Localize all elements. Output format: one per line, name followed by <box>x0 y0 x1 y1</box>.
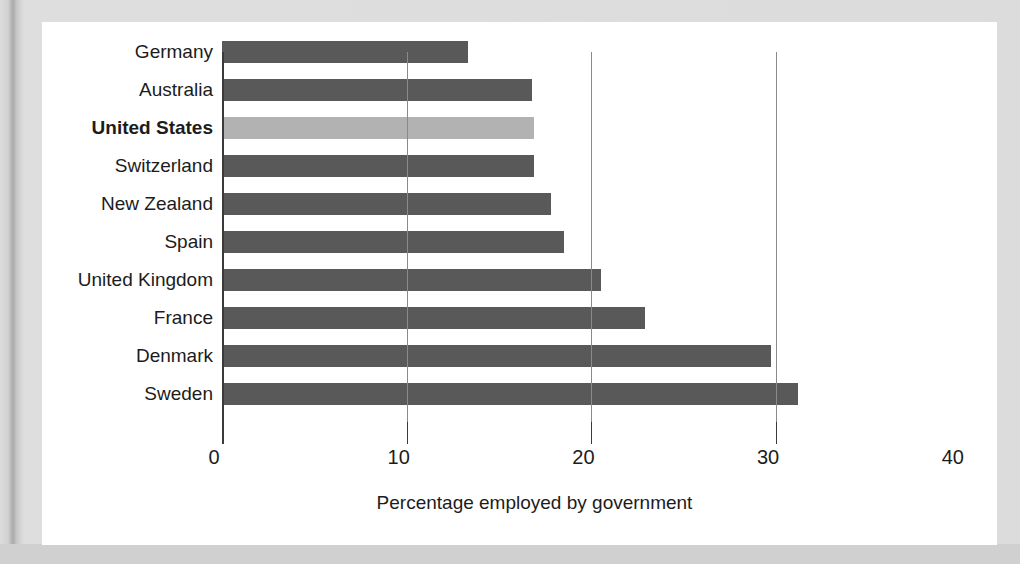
tick-mark-10 <box>407 422 408 444</box>
category-label: Switzerland <box>42 147 222 185</box>
tick-mark-0 <box>222 422 223 444</box>
tick-label-30: 30 <box>738 446 798 469</box>
axis-title-text: Percentage employed by government <box>377 492 693 514</box>
bar-row <box>222 71 997 109</box>
category-label: Germany <box>42 33 222 71</box>
chart-panel: GermanyAustraliaUnited StatesSwitzerland… <box>42 22 997 545</box>
tick-label-0: 0 <box>184 446 244 469</box>
bar-sweden[interactable] <box>222 383 798 405</box>
tick-label-20: 20 <box>553 446 613 469</box>
bar-row <box>222 33 997 71</box>
bar-spain[interactable] <box>222 231 564 253</box>
tick-mark-30 <box>776 422 777 444</box>
value-axis-line <box>222 52 224 444</box>
bar-united-kingdom[interactable] <box>222 269 601 291</box>
category-axis-labels: GermanyAustraliaUnited StatesSwitzerland… <box>42 33 222 413</box>
category-label: Denmark <box>42 337 222 375</box>
category-label: United Kingdom <box>42 261 222 299</box>
bar-united-states[interactable] <box>222 117 534 139</box>
bar-germany[interactable] <box>222 41 468 63</box>
bar-switzerland[interactable] <box>222 155 534 177</box>
gridline-30 <box>776 52 777 444</box>
bar-row <box>222 299 997 337</box>
bar-row <box>222 375 997 413</box>
axis-title: Percentage employed by government <box>42 492 997 514</box>
bar-row <box>222 223 997 261</box>
category-label: New Zealand <box>42 185 222 223</box>
bars-container <box>222 33 997 413</box>
category-label: Spain <box>42 223 222 261</box>
bar-row <box>222 185 997 223</box>
category-label: Sweden <box>42 375 222 413</box>
bar-australia[interactable] <box>222 79 532 101</box>
page-bottom-shade <box>0 544 1020 564</box>
category-label: United States <box>42 109 222 147</box>
tick-label-10: 10 <box>369 446 429 469</box>
bar-row <box>222 109 997 147</box>
category-label: France <box>42 299 222 337</box>
bar-new-zealand[interactable] <box>222 193 551 215</box>
bar-denmark[interactable] <box>222 345 771 367</box>
bar-row <box>222 147 997 185</box>
tick-mark-20 <box>591 422 592 444</box>
bar-row <box>222 261 997 299</box>
category-label: Australia <box>42 71 222 109</box>
bar-chart: GermanyAustraliaUnited StatesSwitzerland… <box>42 22 997 545</box>
bar-row <box>222 337 997 375</box>
gridline-10 <box>407 52 408 444</box>
gridline-20 <box>591 52 592 444</box>
tick-label-40: 40 <box>923 446 983 469</box>
bar-france[interactable] <box>222 307 645 329</box>
